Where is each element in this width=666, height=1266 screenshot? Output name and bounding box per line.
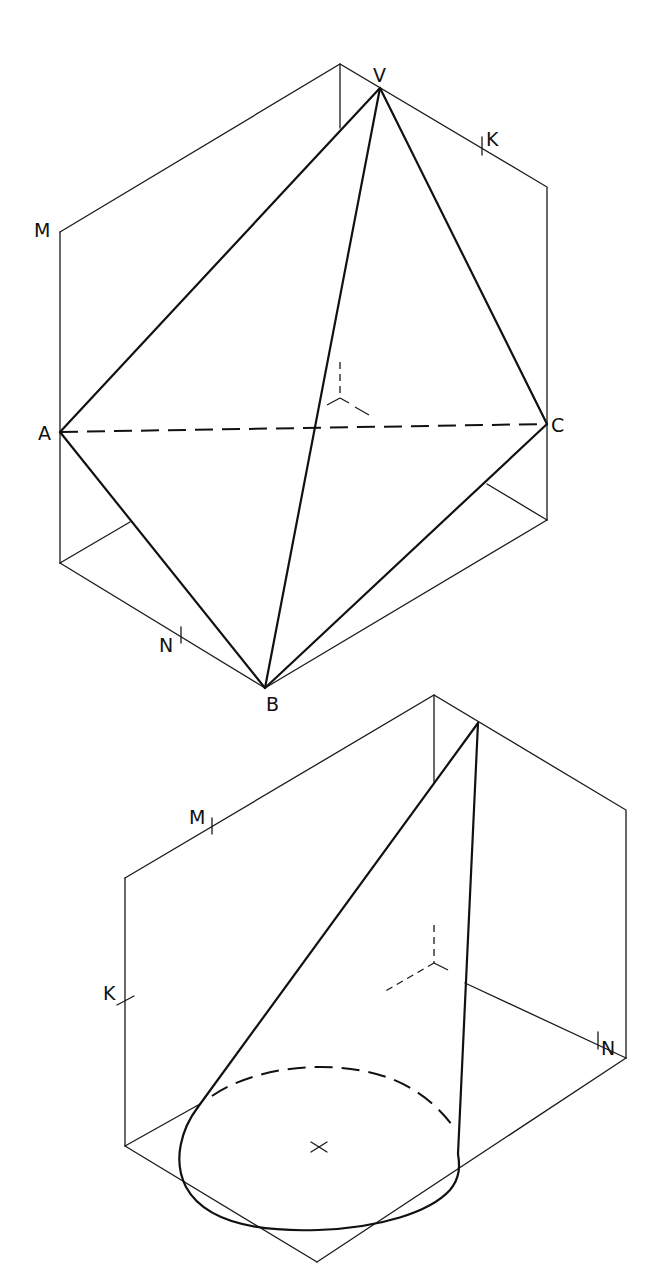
label-M: M bbox=[189, 806, 205, 828]
box-top-edges bbox=[60, 64, 547, 520]
label-N: N bbox=[601, 1037, 615, 1059]
cone-left-generator bbox=[198, 723, 478, 1107]
pyramid-figure: V A C B M K N bbox=[34, 64, 564, 715]
axis-marker-icon bbox=[382, 925, 448, 993]
base-center-mark-icon bbox=[311, 1142, 327, 1152]
cone-box bbox=[125, 695, 626, 1262]
cone-right-generator bbox=[458, 723, 478, 1154]
box-bottom-left-edge bbox=[60, 563, 265, 688]
edge-VC bbox=[380, 88, 547, 424]
edge-VB bbox=[265, 88, 380, 688]
edge-VA bbox=[60, 88, 380, 432]
edge-AC-hidden bbox=[60, 424, 547, 432]
axis-marker-icon bbox=[327, 362, 369, 415]
label-A: A bbox=[38, 422, 51, 444]
label-V: V bbox=[373, 64, 386, 86]
pyramid-box bbox=[60, 64, 547, 688]
box-bottom-left-edge bbox=[125, 1146, 317, 1262]
cone-figure: M K N bbox=[103, 695, 626, 1262]
pyramid-edges bbox=[60, 88, 547, 688]
label-M: M bbox=[34, 219, 50, 241]
label-K: K bbox=[486, 128, 499, 150]
cone-base-hidden-arc bbox=[212, 1067, 452, 1125]
drawing-canvas: V A C B M K N bbox=[0, 0, 666, 1266]
box-bottom-right-edge bbox=[317, 1058, 626, 1262]
label-K: K bbox=[103, 982, 116, 1004]
box-bottom-right-edge bbox=[265, 520, 547, 688]
box-top-edges bbox=[125, 695, 626, 1058]
cone-base-visible-arc bbox=[179, 1107, 459, 1230]
cone-shape bbox=[179, 723, 478, 1230]
label-B: B bbox=[266, 693, 279, 715]
label-C: C bbox=[551, 414, 564, 436]
label-N: N bbox=[159, 634, 173, 656]
box-floor-right bbox=[487, 484, 547, 520]
box-floor-left bbox=[125, 1104, 200, 1146]
box-floor-left bbox=[60, 522, 130, 563]
